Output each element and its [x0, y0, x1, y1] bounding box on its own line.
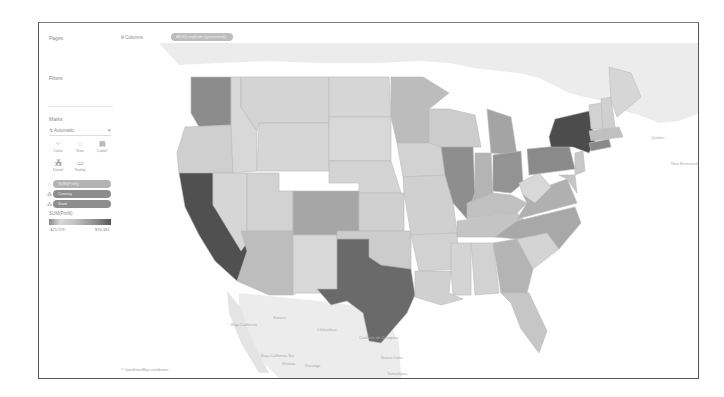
map-attribution[interactable]: © OpenStreetMap contributors	[121, 368, 169, 372]
tooltip-icon: ▭	[72, 159, 88, 167]
legend-title: SUM(Profit)	[49, 211, 73, 216]
chevron-down-icon: ▾	[108, 126, 111, 135]
map-place-label: Sonora	[273, 315, 287, 320]
legend-min-value: -$25,729	[49, 227, 65, 232]
marks-pill-state[interactable]: ⁂ State	[47, 200, 113, 209]
state-wyoming[interactable]	[257, 123, 329, 171]
us-states-map[interactable]: Baja CaliforniaSonoraChihuahuaCoahuila d…	[119, 43, 699, 378]
tooltip-button[interactable]: ▭ Tooltip	[72, 159, 88, 175]
state-south-dakota[interactable]	[329, 117, 391, 161]
state-mississippi[interactable]	[451, 243, 471, 295]
state-north-dakota[interactable]	[329, 77, 391, 117]
state-ohio[interactable]	[493, 151, 523, 193]
label-icon: ▤	[94, 140, 110, 148]
map-place-label: Nuevo León	[381, 355, 403, 360]
state-iowa[interactable]	[397, 143, 445, 177]
map-place-label: Sinaloa	[282, 361, 296, 366]
map-place-label: New Brunswick	[671, 161, 698, 166]
state-wisconsin[interactable]	[429, 109, 481, 147]
size-button[interactable]: ◌ Size	[72, 140, 88, 156]
map-view[interactable]: Baja CaliforniaSonoraChihuahuaCoahuila d…	[119, 43, 699, 378]
map-place-label: Quebec	[651, 135, 665, 140]
marks-pill-country[interactable]: ⁂ Country	[47, 190, 113, 199]
filters-card-label: Filters	[49, 75, 63, 81]
map-place-label: Tamaulipas	[387, 371, 407, 376]
color-legend-bar[interactable]	[49, 219, 111, 225]
columns-pill[interactable]: AVG(Longitude (generated))	[171, 33, 233, 41]
tableau-worksheet: Pages Filters Marks iii Columns AVG(Long…	[38, 22, 699, 379]
mark-type-dropdown[interactable]: ↯ Automatic ▾	[49, 126, 111, 136]
state-kansas[interactable]	[359, 193, 404, 231]
legend-max-value: $76,381	[95, 227, 109, 232]
map-place-label: Durango	[305, 363, 321, 368]
map-place-label: Baja California Sur	[261, 353, 295, 358]
state-washington[interactable]	[191, 77, 231, 127]
color-button[interactable]: ⁘ Color	[50, 140, 66, 156]
state-colorado[interactable]	[293, 191, 359, 235]
detail-icon: ⁂	[47, 201, 52, 207]
pages-card-label: Pages	[49, 35, 63, 41]
mark-type-icon: ↯	[49, 128, 53, 133]
divider	[49, 106, 113, 107]
size-icon: ◌	[72, 140, 88, 148]
label-button[interactable]: ▤ Label	[94, 140, 110, 156]
mark-type-label: Automatic	[54, 128, 74, 133]
color-icon: ⁘	[47, 181, 51, 187]
detail-icon: ⁂	[47, 191, 52, 197]
detail-button[interactable]: ⁂ Detail	[50, 159, 66, 175]
map-place-label: Chihuahua	[317, 327, 337, 332]
marks-card-label: Marks	[49, 116, 63, 122]
map-place-label: Baja California	[231, 322, 258, 327]
columns-icon: iii	[121, 35, 124, 40]
columns-shelf-label: iii Columns	[121, 35, 143, 40]
color-icon: ⁘	[50, 140, 66, 148]
state-new-mexico[interactable]	[293, 235, 337, 295]
state-new-jersey[interactable]	[575, 151, 585, 175]
marks-pill-profit[interactable]: ⁘ SUM(Profit)	[47, 180, 113, 189]
state-vermont[interactable]	[589, 103, 603, 129]
state-oregon[interactable]	[177, 125, 233, 173]
detail-icon: ⁂	[50, 159, 66, 167]
map-place-label: Coahuila de Zaragoza	[359, 335, 399, 340]
